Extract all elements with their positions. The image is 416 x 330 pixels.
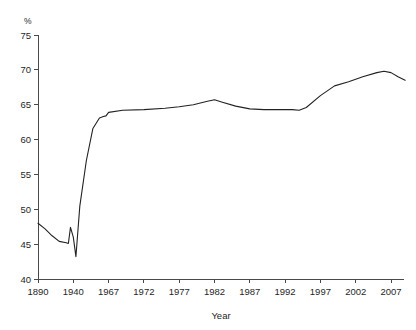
y-tick-label: 75 <box>20 30 31 41</box>
y-tick-label: 50 <box>20 204 31 215</box>
y-axis-unit-label: % <box>24 16 32 26</box>
y-axis-ticks: 7570656055504540 <box>20 30 38 285</box>
x-tick-label: 1967 <box>98 286 119 297</box>
x-axis-ticks: 1890194019671972197719821987199219972002… <box>27 279 401 297</box>
x-tick-label: 1940 <box>63 286 84 297</box>
x-tick-label: 1972 <box>133 286 154 297</box>
x-tick-label: 2007 <box>380 286 401 297</box>
line-chart: % 7570656055504540 189019401967197219771… <box>0 0 416 330</box>
chart-container: % 7570656055504540 189019401967197219771… <box>0 0 416 330</box>
x-axis-title: Year <box>211 310 230 321</box>
data-series-line <box>38 71 405 256</box>
x-tick-label: 1982 <box>204 286 225 297</box>
y-tick-label: 65 <box>20 99 31 110</box>
x-tick-label: 1992 <box>275 286 296 297</box>
y-tick-label: 40 <box>20 274 31 285</box>
plot-area: % 7570656055504540 189019401967197219771… <box>20 16 405 321</box>
x-tick-label: 1890 <box>27 286 48 297</box>
x-tick-label: 1997 <box>310 286 331 297</box>
x-tick-label: 1987 <box>239 286 260 297</box>
x-tick-label: 2002 <box>345 286 366 297</box>
y-tick-label: 55 <box>20 169 31 180</box>
x-tick-label: 1977 <box>169 286 190 297</box>
y-tick-label: 70 <box>20 64 31 75</box>
y-tick-label: 45 <box>20 239 31 250</box>
y-tick-label: 60 <box>20 134 31 145</box>
